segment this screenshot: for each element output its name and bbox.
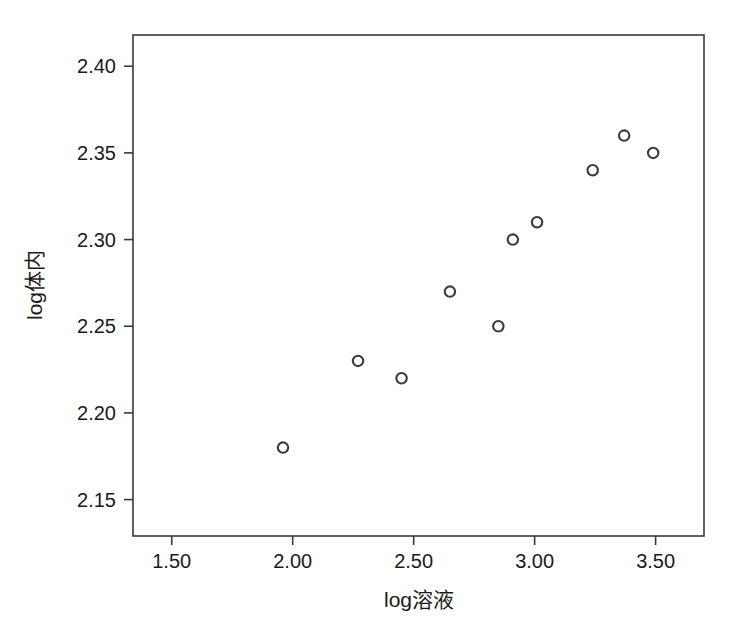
y-tick-label: 2.30	[77, 229, 116, 251]
x-axis-title: log溶液	[384, 588, 454, 611]
y-axis-tick-labels: 2.152.202.252.302.352.40	[77, 55, 116, 510]
x-tick-label: 1.50	[152, 550, 191, 572]
y-tick-label: 2.40	[77, 55, 116, 77]
data-point	[493, 321, 503, 331]
data-point	[619, 130, 629, 140]
y-axis-title: log体内	[23, 250, 46, 320]
data-point	[445, 286, 455, 296]
x-tick-label: 3.50	[636, 550, 675, 572]
x-tick-label: 2.50	[394, 550, 433, 572]
y-axis-tick-marks	[124, 66, 133, 499]
data-point	[508, 234, 518, 244]
x-axis-tick-marks	[172, 536, 656, 545]
x-axis-tick-labels: 1.502.002.503.003.50	[152, 550, 675, 572]
data-point	[532, 217, 542, 227]
y-tick-label: 2.35	[77, 142, 116, 164]
data-point	[278, 442, 288, 452]
data-point	[648, 148, 658, 158]
y-tick-label: 2.25	[77, 315, 116, 337]
data-point	[588, 165, 598, 175]
data-point	[353, 356, 363, 366]
data-point	[396, 373, 406, 383]
plot-canvas: 1.502.002.503.003.50 2.152.202.252.302.3…	[0, 0, 742, 635]
scatter-plot-figure: 1.502.002.503.003.50 2.152.202.252.302.3…	[0, 0, 742, 635]
plot-frame	[133, 35, 704, 536]
data-point-series	[278, 130, 659, 452]
y-tick-label: 2.15	[77, 489, 116, 511]
x-tick-label: 2.00	[273, 550, 312, 572]
x-tick-label: 3.00	[515, 550, 554, 572]
y-tick-label: 2.20	[77, 402, 116, 424]
